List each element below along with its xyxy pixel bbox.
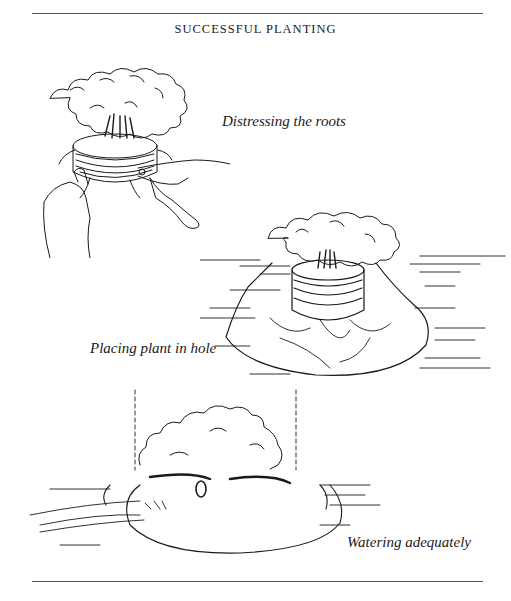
top-rule xyxy=(32,13,483,14)
page-title: SUCCESSFUL PLANTING xyxy=(0,22,511,37)
caption-watering: Watering adequately xyxy=(347,534,471,551)
bottom-rule xyxy=(32,581,483,582)
caption-distressing-roots: Distressing the roots xyxy=(222,113,346,130)
tree-in-hole-icon xyxy=(200,208,511,380)
tree-watering-hose-icon xyxy=(20,385,500,555)
caption-placing-plant: Placing plant in hole xyxy=(90,340,216,357)
